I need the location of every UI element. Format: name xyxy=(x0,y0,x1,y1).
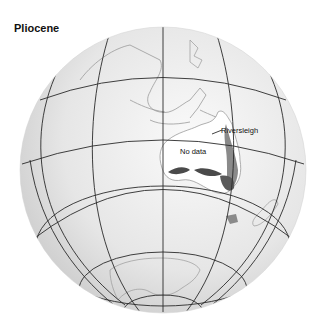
riversleigh-label: Riversleigh xyxy=(221,126,258,135)
globe-map: Riversleigh No data xyxy=(0,0,318,336)
no-data-label: No data xyxy=(180,147,207,156)
